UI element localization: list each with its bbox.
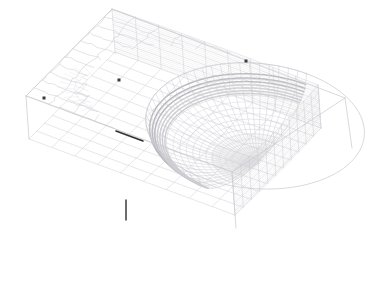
mesh-viewport: Finite element mesh of a block with a he… [0,0,386,283]
finite-element-mesh-canvas [0,0,386,283]
